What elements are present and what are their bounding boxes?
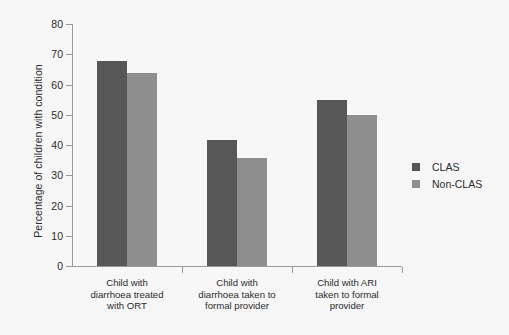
bar-clas-group-3 [317, 100, 347, 266]
x-axis-category-label-line: with ORT [67, 300, 187, 312]
legend-item-non-clas: Non-CLAS [412, 175, 482, 192]
x-axis-tick-mark [292, 267, 293, 273]
y-axis-tick-label: 70 [51, 48, 63, 60]
y-axis-tick-mark [66, 54, 72, 55]
y-axis-tick-label: 80 [51, 18, 63, 30]
y-axis-tick-label: 30 [51, 169, 63, 181]
y-axis-tick-label: 50 [51, 109, 63, 121]
legend: CLASNon-CLAS [412, 158, 482, 192]
x-axis-category-label: Child withdiarrhoea treatedwith ORT [67, 277, 187, 312]
legend-item-clas: CLAS [412, 158, 482, 175]
bar-chart: Percentage of children with condition 01… [0, 0, 509, 335]
x-axis-category-label-line: diarrhoea treated [67, 289, 187, 301]
x-axis-category-label-line: taken to formal [287, 289, 407, 301]
y-axis-tick-mark [66, 115, 72, 116]
x-axis-line [72, 266, 402, 267]
y-axis-tick-label: 40 [51, 139, 63, 151]
y-axis-title: Percentage of children with condition [32, 31, 44, 271]
y-axis-tick-label: 0 [57, 260, 63, 272]
x-axis-category-label-line: formal provider [177, 300, 297, 312]
y-axis-tick-mark [66, 85, 72, 86]
x-axis-category-label-line: Child with [67, 277, 187, 289]
x-axis-category-label-line: Child with [177, 277, 297, 289]
y-axis-tick-mark [66, 145, 72, 146]
bar-non-clas-group-3 [347, 115, 377, 266]
y-axis-line [72, 24, 73, 267]
x-axis-category-label-line: diarrhoea taken to [177, 289, 297, 301]
y-axis-tick-mark [66, 24, 72, 25]
y-axis-tick-label: 20 [51, 200, 63, 212]
x-axis-tick-mark [182, 267, 183, 273]
x-axis-category-label-line: provider [287, 300, 407, 312]
x-axis-category-label: Child withdiarrhoea taken toformal provi… [177, 277, 297, 312]
legend-swatch-icon [412, 163, 420, 171]
y-axis-tick-label: 60 [51, 79, 63, 91]
x-axis-category-label: Child with ARItaken to formalprovider [287, 277, 407, 312]
bar-clas-group-2 [207, 140, 237, 266]
x-axis-tick-mark [402, 267, 403, 273]
y-axis-tick-label: 10 [51, 230, 63, 242]
bar-clas-group-1 [97, 61, 127, 266]
legend-label: CLAS [432, 161, 459, 173]
bar-non-clas-group-2 [237, 158, 267, 266]
y-axis-tick-mark [66, 266, 72, 267]
y-axis-tick-mark [66, 175, 72, 176]
plot-area: 01020304050607080 [72, 24, 402, 267]
y-axis-tick-mark [66, 236, 72, 237]
x-axis-category-label-line: Child with ARI [287, 277, 407, 289]
legend-swatch-icon [412, 180, 420, 188]
y-axis-tick-mark [66, 206, 72, 207]
bar-non-clas-group-1 [127, 73, 157, 266]
legend-label: Non-CLAS [432, 178, 482, 190]
